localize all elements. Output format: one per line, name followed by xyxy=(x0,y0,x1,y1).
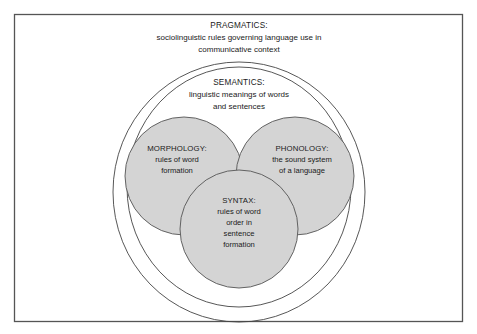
pragmatics-description-line-2: communicative context xyxy=(198,45,280,54)
syntax-description-line-3: sentence xyxy=(224,229,255,238)
venn-diagram-canvas: PRAGMATICS: sociolinguistic rules govern… xyxy=(0,0,477,334)
syntax-description-line-2: order in xyxy=(226,218,252,227)
pragmatics-label: PRAGMATICS: xyxy=(210,21,267,30)
morphology-label: MORPHOLOGY: xyxy=(147,144,207,153)
semantics-description-line-1: linguistic meanings of words xyxy=(189,90,289,99)
phonology-label: PHONOLOGY: xyxy=(276,144,329,153)
phonology-description-line-1: the sound system xyxy=(272,155,332,164)
pragmatics-description-line-1: sociolinguistic rules governing language… xyxy=(157,33,322,42)
morphology-description-line-1: rules of word xyxy=(155,155,198,164)
linguistics-venn-diagram: PRAGMATICS: sociolinguistic rules govern… xyxy=(0,0,477,334)
syntax-description-line-1: rules of word xyxy=(217,207,260,216)
morphology-description-line-2: formation xyxy=(161,166,193,175)
syntax-description-line-4: formation xyxy=(223,240,255,249)
syntax-label: SYNTAX: xyxy=(222,196,255,205)
semantics-label: SEMANTICS: xyxy=(213,78,265,87)
semantics-description-line-2: and sentences xyxy=(213,102,265,111)
phonology-description-line-2: of a language xyxy=(279,166,325,175)
